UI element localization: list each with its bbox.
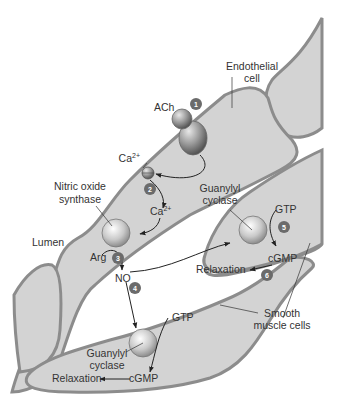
ca-top-label: Ca2+ xyxy=(119,152,140,164)
svg-text:5: 5 xyxy=(282,224,286,231)
step-badge-6: 6 xyxy=(261,269,273,281)
relaxation-lower-label: Relaxation xyxy=(52,372,102,384)
smooth-muscle-label-2: muscle cells xyxy=(253,319,310,331)
smooth-muscle-label: Smooth xyxy=(264,307,300,319)
endothelial-label: Endothelial xyxy=(226,60,278,72)
nos-label: Nitric oxide xyxy=(54,180,106,192)
calcium-channel xyxy=(142,167,154,179)
guanylyl-cyclase-upper xyxy=(239,216,267,244)
step-badge-3: 3 xyxy=(112,252,124,264)
svg-text:3: 3 xyxy=(116,255,120,262)
step-badge-4: 4 xyxy=(129,282,141,294)
svg-text:1: 1 xyxy=(194,101,198,108)
nitric-oxide-synthase-enzyme xyxy=(102,219,130,247)
endothelial-label-2: cell xyxy=(244,72,260,84)
cgmp-upper-label: cGMP xyxy=(268,252,297,264)
ach-label: ACh xyxy=(154,101,175,113)
svg-text:4: 4 xyxy=(133,285,137,292)
no-label: NO xyxy=(115,272,131,284)
step-badge-5: 5 xyxy=(278,221,290,233)
gtp-upper-label: GTP xyxy=(275,203,297,215)
gc-lower-label: Guanylyl xyxy=(87,347,128,359)
relaxation-upper-label: Relaxation xyxy=(196,263,246,275)
svg-text:2: 2 xyxy=(148,186,152,193)
gc-upper-label: Guanylyl xyxy=(200,182,241,194)
lumen-label: Lumen xyxy=(32,236,64,248)
step-badge-2: 2 xyxy=(144,183,156,195)
svg-text:6: 6 xyxy=(265,272,269,279)
gc-lower-label-2: cyclase xyxy=(89,359,124,371)
gc-upper-label-2: cyclase xyxy=(202,194,237,206)
no-signaling-diagram: Endothelial cell ACh Ca2+ Ca2+ Nitric ox… xyxy=(0,0,342,409)
gtp-lower-label: GTP xyxy=(172,311,194,323)
nos-label-2: synthase xyxy=(59,193,101,205)
arg-label: Arg xyxy=(90,251,107,263)
cgmp-lower-label: cGMP xyxy=(129,372,158,384)
step-badge-1: 1 xyxy=(190,98,202,110)
